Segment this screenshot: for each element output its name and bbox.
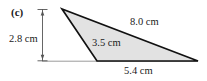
part-label: (c) [11,7,23,18]
height-measurement-label: 2.8 cm [9,34,38,45]
height-arrow-up [41,11,45,16]
left-side-measurement-label: 3.5 cm [92,38,121,49]
base-measurement-label: 5.4 cm [124,66,153,77]
height-arrow-down [41,55,45,60]
hypotenuse-measurement-label: 8.0 cm [130,17,159,28]
geometry-figure: (c) 2.8 cm 8.0 cm 3.5 cm 5.4 cm [0,0,207,81]
